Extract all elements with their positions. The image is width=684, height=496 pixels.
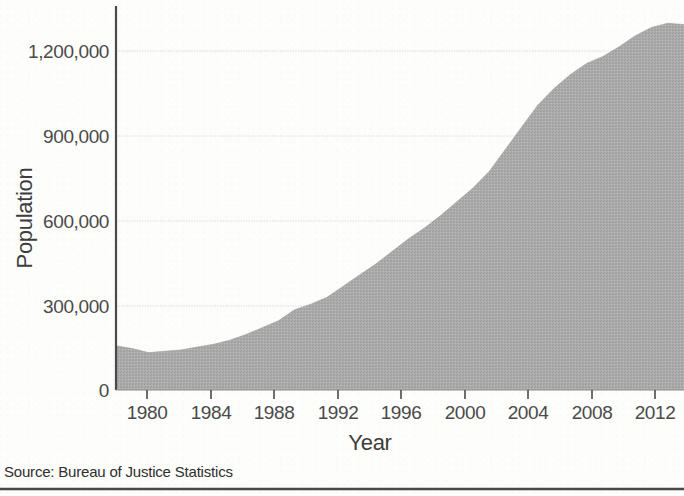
xtick-label-1996: 1996 [381,402,422,423]
xtick-label-1992: 1992 [318,402,359,423]
source-note: Source: Bureau of Justice Statistics [4,463,233,480]
x-axis-title: Year [348,430,391,455]
area-fill [116,23,684,390]
ytick-label-600000: 600,000 [43,211,109,232]
xtick-label-2008: 2008 [572,402,613,423]
xtick-label-1980: 1980 [127,402,168,423]
y-axis-title: Population [12,168,37,269]
ytick-label-0: 0 [99,380,109,401]
xtick-label-1984: 1984 [191,402,233,423]
xtick-label-2012: 2012 [635,402,676,423]
xtick-label-2004: 2004 [508,402,550,423]
chart-figure: 1,200,000 900,000 600,000 300,000 0 1980… [0,0,684,496]
ytick-label-300000: 300,000 [43,296,109,317]
y-axis-tick-labels: 1,200,000 900,000 600,000 300,000 0 [28,41,109,401]
ytick-label-1200000: 1,200,000 [28,41,109,62]
x-axis-tick-labels: 1980 1984 1988 1992 1996 2000 2004 2008 … [127,402,676,423]
x-axis-ticks [147,390,655,399]
population-area-chart: 1,200,000 900,000 600,000 300,000 0 1980… [0,0,684,496]
xtick-label-1988: 1988 [254,402,295,423]
ytick-label-900000: 900,000 [43,126,109,147]
xtick-label-2000: 2000 [445,402,486,423]
area-series-population [116,23,684,390]
